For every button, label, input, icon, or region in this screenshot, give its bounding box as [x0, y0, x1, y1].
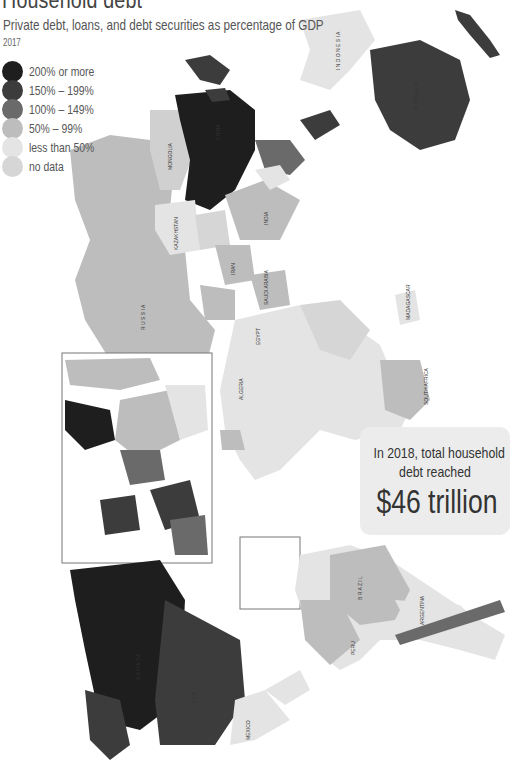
label-kazakhstan: KAZAKHSTAN: [173, 217, 179, 250]
label-india: INDIA: [263, 211, 269, 225]
label-peru: PERU: [350, 641, 356, 655]
legend-item-less-than-50: less than 50%: [2, 138, 111, 157]
region-saudi: [250, 270, 290, 310]
label-egypt: EGYPT: [255, 328, 261, 345]
label-algeria: ALGERIA: [238, 378, 244, 400]
label-indonesia: I N D O N E S I A: [335, 31, 341, 70]
region-india: [225, 180, 300, 240]
legend-item-200-plus: 200% or more: [2, 62, 111, 81]
legend-swatch: [2, 61, 23, 82]
legend-item-150-199: 150% – 199%: [2, 81, 111, 100]
legend-swatch: [2, 118, 23, 139]
region-malaysia: [300, 110, 340, 140]
legend-item-no-data: no data: [2, 157, 111, 176]
legend-swatch: [2, 156, 23, 177]
label-canada: C A N A D A: [135, 653, 141, 680]
label-australia: AUSTRALIA: [413, 82, 419, 110]
callout-line2: debt reached: [374, 463, 497, 480]
year-label: 2017: [3, 37, 21, 48]
label-south-africa: SOUTH AFRICA: [423, 367, 429, 405]
label-usa: U S A: [191, 692, 197, 705]
callout-line1: In 2018, total household: [374, 444, 497, 461]
region-usa: [155, 600, 245, 745]
legend-label: 100% – 149%: [29, 102, 94, 117]
subtitle: Private debt, loans, and debt securities…: [3, 16, 324, 33]
label-argentina: ARGENTINA: [419, 595, 425, 625]
page-title: Household debt: [2, 0, 142, 14]
legend-swatch: [2, 80, 23, 101]
region-central-asia: [195, 210, 230, 250]
caribbean-inset: [240, 537, 300, 609]
label-china: CHINA: [215, 124, 221, 140]
callout-box: In 2018, total household debt reached $4…: [360, 427, 510, 535]
legend-label: 150% – 199%: [29, 83, 94, 98]
region-new-zealand: [455, 10, 500, 58]
legend-swatch: [2, 99, 23, 120]
legend-item-50-99: 50% – 99%: [2, 119, 111, 138]
region-australia: [370, 40, 470, 150]
label-mongolia: MONGOLIA: [167, 142, 173, 170]
region-spain: [170, 515, 208, 555]
label-madagascar: MADAGASCAR: [405, 284, 411, 320]
legend-swatch: [2, 137, 23, 158]
legend: 200% or more 150% – 199% 100% – 149% 50%…: [2, 62, 111, 176]
region-turkey: [200, 285, 235, 320]
label-iran: IRAN: [230, 263, 236, 275]
legend-label: 50% – 99%: [29, 121, 82, 136]
callout-amount: $46 trillion: [377, 482, 494, 521]
label-mexico: MEXICO: [245, 720, 251, 740]
legend-label: no data: [29, 159, 64, 174]
label-saudi-arabia: SAUDI ARABIA: [263, 270, 269, 305]
legend-item-100-149: 100% – 149%: [2, 100, 111, 119]
region-uk: [100, 495, 140, 535]
label-brazil: B R A Z I L: [357, 576, 363, 600]
legend-label: 200% or more: [29, 64, 94, 79]
legend-label: less than 50%: [29, 140, 94, 155]
label-russia: R U S S I A: [140, 304, 146, 330]
region-japan-korea: [185, 55, 230, 85]
